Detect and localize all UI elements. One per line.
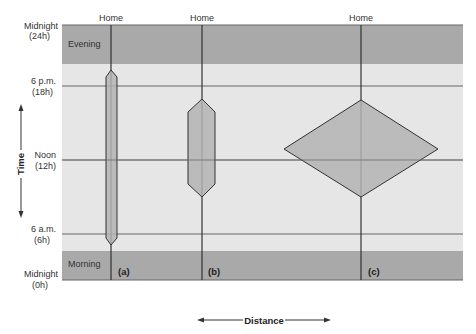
time-axis-arrow: Time [15,104,26,218]
arrow-up-icon [19,104,24,111]
tick-midnight-0h: Midnight [24,269,59,279]
tick-6pm: 6 p.m. [31,76,56,86]
panel-label-b: (b) [208,266,220,277]
home-label-c: Home [349,13,373,23]
home-label-a: Home [99,13,123,23]
prism-b [188,99,215,197]
prism-a [106,70,117,245]
time-axis-title: Time [15,153,26,175]
time-geography-diagram: Evening Morning Home Home Home (a) (b) (… [0,0,476,334]
tick-noon-sub: (12h) [35,161,56,171]
distance-axis-arrow: Distance [197,315,331,326]
arrow-down-icon [19,211,24,218]
tick-6am: 6 a.m. [31,224,56,234]
arrow-right-icon [324,318,331,323]
distance-axis-title: Distance [244,315,284,326]
tick-midnight-24h-sub: (24h) [29,31,50,41]
tick-noon: Noon [34,150,56,160]
tick-midnight-0h-sub: (0h) [32,280,48,290]
tick-6am-sub: (6h) [34,235,50,245]
arrow-left-icon [197,318,204,323]
morning-label: Morning [68,259,101,269]
panel-label-c: (c) [368,266,380,277]
evening-label: Evening [68,39,101,49]
tick-midnight-24h: Midnight [24,21,59,31]
tick-6pm-sub: (18h) [32,87,53,97]
evening-band [62,25,463,64]
home-label-b: Home [190,13,214,23]
panel-label-a: (a) [118,266,130,277]
